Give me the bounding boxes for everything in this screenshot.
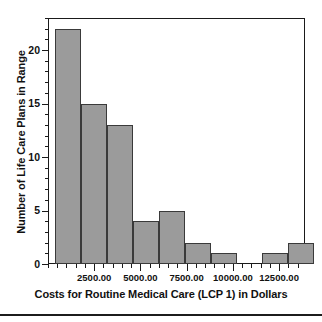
x-tick-label: 7500.00: [169, 273, 203, 283]
y-tick-minor: [45, 136, 49, 137]
histogram-bar: [81, 104, 107, 264]
x-tick-minor: [103, 264, 104, 268]
x-tick-minor: [113, 264, 114, 268]
y-tick-major: [42, 50, 48, 51]
x-tick-major: [94, 264, 95, 271]
x-tick-minor: [242, 264, 243, 268]
y-axis-title: Number of Life Care Plans in Range: [15, 17, 27, 267]
x-tick-minor: [66, 264, 67, 268]
x-tick-minor: [205, 264, 206, 268]
histogram-bar: [55, 29, 81, 264]
y-tick-label: 20: [28, 45, 40, 56]
x-tick-minor: [48, 264, 49, 268]
y-tick-minor: [45, 189, 49, 190]
histogram-bar: [288, 243, 314, 264]
y-tick-minor: [45, 125, 49, 126]
histogram-bar: [133, 221, 159, 264]
y-tick-minor: [45, 29, 49, 30]
y-tick-label: 10: [28, 152, 40, 163]
y-tick-minor: [45, 82, 49, 83]
y-tick-minor: [45, 178, 49, 179]
x-tick-label: 2500.00: [77, 273, 111, 283]
x-tick-minor: [261, 264, 262, 268]
x-tick-minor: [224, 264, 225, 268]
x-tick-minor: [159, 264, 160, 268]
y-tick-minor: [45, 61, 49, 62]
y-tick-minor: [45, 253, 49, 254]
x-tick-minor: [251, 264, 252, 268]
y-tick-minor: [45, 114, 49, 115]
y-tick-major: [42, 211, 48, 212]
y-tick-minor: [45, 200, 49, 201]
y-tick-minor: [45, 221, 49, 222]
y-tick-major: [42, 104, 48, 105]
y-tick-minor: [45, 18, 49, 19]
x-tick-major: [140, 264, 141, 271]
y-tick-minor: [45, 168, 49, 169]
y-tick-minor: [45, 93, 49, 94]
histogram-bar: [159, 211, 185, 264]
x-tick-minor: [122, 264, 123, 268]
y-tick-label: 5: [34, 205, 40, 216]
x-tick-major: [279, 264, 280, 271]
x-tick-minor: [196, 264, 197, 268]
x-tick-minor: [168, 264, 169, 268]
x-axis-title: Costs for Routine Medical Care (LCP 1) i…: [0, 288, 322, 300]
histogram-bar: [262, 253, 288, 264]
x-tick-minor: [270, 264, 271, 268]
bottom-divider: [0, 314, 322, 316]
x-tick-minor: [288, 264, 289, 268]
x-tick-label: 10000.00: [213, 273, 253, 283]
x-tick-major: [187, 264, 188, 271]
y-tick-minor: [45, 39, 49, 40]
x-tick-minor: [131, 264, 132, 268]
x-tick-minor: [298, 264, 299, 268]
x-tick-minor: [177, 264, 178, 268]
x-tick-label: 5000.00: [123, 273, 157, 283]
y-tick-major: [42, 157, 48, 158]
histogram-screenshot: 05101520 2500.005000.007500.0010000.0012…: [0, 0, 322, 322]
y-tick-minor: [45, 146, 49, 147]
bars-layer: [48, 18, 305, 264]
histogram-bar: [107, 125, 133, 264]
x-tick-minor: [85, 264, 86, 268]
x-tick-label: 12500.00: [259, 273, 299, 283]
histogram-bar: [211, 253, 237, 264]
y-tick-minor: [45, 232, 49, 233]
y-tick-minor: [45, 243, 49, 244]
x-axis: 2500.005000.007500.0010000.0012500.00: [0, 264, 322, 310]
y-tick-minor: [45, 71, 49, 72]
x-tick-minor: [76, 264, 77, 268]
y-tick-label: 15: [28, 98, 40, 109]
x-tick-minor: [57, 264, 58, 268]
histogram-bar: [185, 243, 211, 264]
x-tick-minor: [214, 264, 215, 268]
x-tick-minor: [150, 264, 151, 268]
x-tick-major: [233, 264, 234, 271]
histogram-chart: 05101520 2500.005000.007500.0010000.0012…: [0, 0, 322, 310]
